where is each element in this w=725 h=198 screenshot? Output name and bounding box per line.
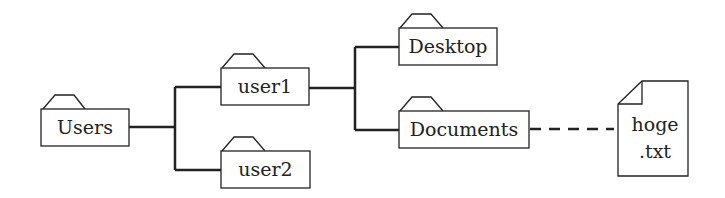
folder-label-users: Users xyxy=(57,116,113,138)
file-label-line2: .txt xyxy=(639,140,671,162)
folder-label-user1: user1 xyxy=(238,75,292,97)
directory-tree-diagram: Users user1 user2 Desktop Documents hoge… xyxy=(0,0,725,198)
folder-label-documents: Documents xyxy=(410,118,518,140)
folder-icon xyxy=(222,54,265,68)
folder-icon xyxy=(400,97,443,111)
file-label-line1: hoge xyxy=(631,113,678,135)
folder-label-desktop: Desktop xyxy=(409,35,488,57)
folder-icon xyxy=(222,137,265,151)
folder-label-user2: user2 xyxy=(238,158,292,180)
edge-user1-children xyxy=(309,47,399,130)
folder-icon xyxy=(43,95,85,109)
edge-users-children xyxy=(129,87,221,170)
folder-icon xyxy=(400,14,443,28)
